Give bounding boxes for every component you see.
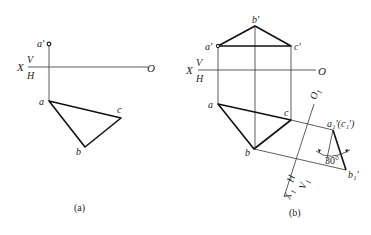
label-b-prime: b' — [252, 14, 260, 25]
label-b1: b₁' — [348, 169, 359, 180]
label-x: X — [185, 64, 194, 76]
label-o: O — [147, 62, 155, 74]
label-v: V — [196, 57, 204, 68]
caption-b: (b) — [289, 207, 301, 219]
label-o: O — [318, 65, 326, 77]
label-v1: V 1 — [296, 177, 313, 191]
label-a: a — [39, 96, 44, 107]
label-x: X — [16, 61, 25, 73]
angle-label: 30° — [325, 155, 339, 166]
label-o1: O 1 — [307, 87, 324, 101]
label-a-prime: a' — [37, 38, 45, 49]
label-b: b — [76, 146, 81, 157]
point-a-prime — [47, 42, 51, 46]
triangle-abc-frontal — [218, 26, 291, 46]
triangle-abc-horizontal — [218, 104, 291, 149]
label-h: H — [195, 73, 204, 84]
label-c-prime: c' — [294, 41, 301, 52]
label-c: c — [284, 107, 289, 118]
point-a-prime — [216, 44, 219, 47]
figure-b: b' a' c' X V H O a c b O 1 H V 1 X 1 a₁'… — [185, 14, 359, 219]
diagram-canvas: a' X V H O a c b (a) b' a' c' X V H O — [0, 0, 371, 235]
figure-a: a' X V H O a c b (a) — [16, 38, 155, 214]
label-h: H — [26, 70, 35, 81]
label-a-prime: a' — [205, 41, 213, 52]
label-v: V — [27, 54, 35, 65]
label-b: b — [245, 147, 250, 158]
label-x1: X 1 — [281, 187, 298, 202]
label-a: a — [208, 99, 213, 110]
label-h-aux: H — [284, 173, 297, 185]
caption-a: (a) — [74, 202, 85, 214]
svg-text:H: H — [284, 173, 297, 185]
label-a1c1: a₁'(c₁') — [327, 118, 355, 130]
label-c: c — [117, 104, 122, 115]
triangle-abc-horizontal — [49, 101, 121, 147]
